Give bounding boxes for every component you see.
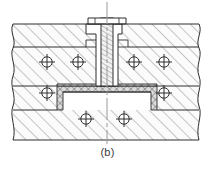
figure-container: (b) [0,0,215,171]
upper-housing-left [13,24,96,86]
figure-caption: (b) [0,146,215,158]
upper-housing-right [118,24,199,86]
